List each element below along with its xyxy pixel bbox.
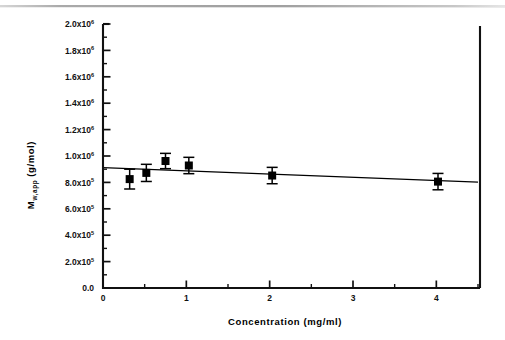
x-tick-label: 1 [184, 293, 189, 303]
y-tick-label: 2.0x106 [65, 19, 94, 29]
y-tick-label: 1.4x106 [65, 98, 94, 108]
y-axis-ticks [103, 24, 111, 288]
x-axis-tick-labels: 01234 [101, 293, 439, 303]
scatter-plot: 01234 0.02.0x1054.0x1056.0x1058.0x1051.0… [0, 0, 505, 340]
y-tick-label: 8.0x105 [65, 177, 94, 187]
y-tick-label: 2.0x105 [65, 257, 94, 267]
y-axis-title-units: (g/mol) [25, 141, 36, 177]
axes-frame [103, 24, 480, 288]
data-point [160, 153, 171, 168]
axis-spines [103, 24, 480, 288]
y-tick-label: 6.0x105 [65, 204, 94, 214]
marker-square [434, 178, 442, 186]
y-axis-title: Mw,app(g/mol) [25, 141, 39, 209]
y-tick-label: 0.0 [82, 283, 94, 293]
marker-square [126, 175, 134, 183]
y-tick-label: 1.2x106 [65, 125, 94, 135]
y-tick-label: 4.0x105 [65, 230, 94, 240]
x-axis-title: Concentration (mg/ml) [228, 316, 342, 327]
y-axis-title-base: M [25, 201, 36, 210]
fit-line [103, 168, 478, 182]
x-tick-label: 3 [351, 293, 356, 303]
data-point [124, 169, 135, 189]
scan-artifact-line-secondary [0, 7, 505, 8]
data-point [141, 164, 152, 181]
y-tick-label: 1.8x106 [65, 45, 94, 55]
data-point [433, 173, 444, 189]
marker-square [185, 162, 193, 170]
x-tick-label: 0 [101, 293, 106, 303]
x-axis-ticks [103, 281, 478, 289]
y-axis-tick-labels: 0.02.0x1054.0x1056.0x1058.0x1051.0x1061.… [65, 19, 94, 293]
data-point [267, 167, 278, 183]
marker-square [268, 172, 276, 180]
figure-container: 01234 0.02.0x1054.0x1056.0x1058.0x1051.0… [0, 0, 505, 340]
fit-line-segment [103, 168, 478, 182]
marker-square [142, 169, 150, 177]
data-points-group [124, 153, 443, 189]
x-tick-label: 4 [434, 293, 439, 303]
y-tick-label: 1.0x106 [65, 151, 94, 161]
x-tick-label: 2 [267, 293, 272, 303]
marker-square [162, 157, 170, 165]
y-tick-label: 1.6x106 [65, 72, 94, 82]
y-axis-title-subscript: w,app [31, 180, 39, 202]
